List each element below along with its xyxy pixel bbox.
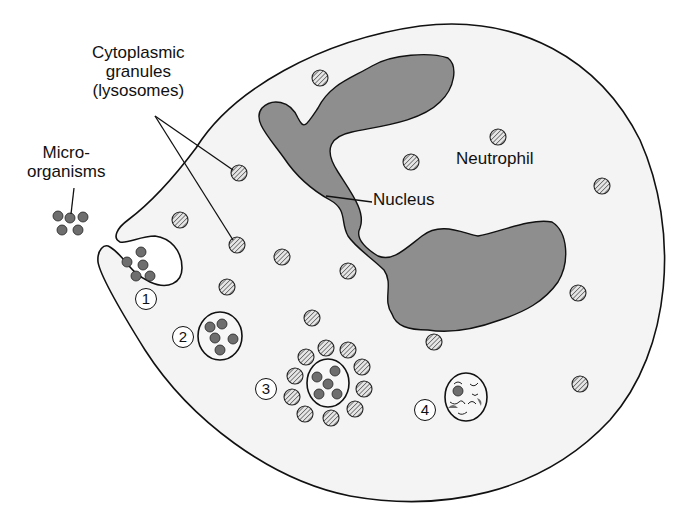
granules-label-line3: (lysosomes) — [92, 81, 185, 100]
free-microorganisms — [53, 211, 88, 235]
granules-label-line1: Cytoplasmic — [92, 43, 185, 62]
microorganisms-label: Micro- organisms — [27, 143, 105, 181]
microorganisms-label-line1: Micro- — [27, 143, 105, 162]
stage-4-digestion — [445, 373, 487, 421]
microorganisms-label-line2: organisms — [27, 162, 105, 181]
stage-1-marker: 1 — [135, 288, 157, 310]
stage-3-marker: 3 — [255, 378, 277, 400]
stage-4-marker: 4 — [414, 399, 436, 421]
neutrophil-label: Neutrophil — [456, 149, 534, 168]
stage-2-phagosome — [198, 312, 242, 360]
granules-label-line2: granules — [92, 62, 185, 81]
nucleus-label: Nucleus — [373, 190, 434, 209]
granules-label: Cytoplasmic granules (lysosomes) — [92, 43, 185, 100]
stage-2-marker: 2 — [172, 326, 194, 348]
